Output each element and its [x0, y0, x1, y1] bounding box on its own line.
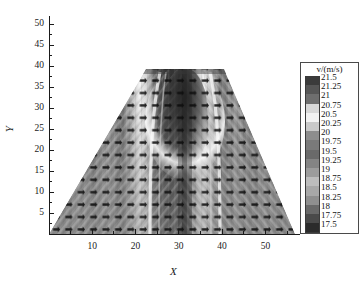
colorbar-swatch — [305, 205, 320, 214]
colorbar-swatch — [305, 113, 320, 122]
x-axis-title: X — [170, 265, 177, 277]
colorbar-swatch — [305, 104, 320, 113]
y-axis-title: Y — [3, 126, 15, 132]
x-tick-label: 40 — [210, 241, 234, 251]
colorbar-swatch — [305, 186, 320, 195]
y-tick-label: 45 — [22, 39, 44, 49]
y-tick-label: 50 — [22, 18, 44, 28]
y-tick-label: 15 — [22, 165, 44, 175]
colorbar-swatch — [305, 214, 320, 223]
colorbar-tick-label: 17.5 — [321, 220, 337, 229]
x-tick-label: 50 — [253, 241, 277, 251]
colorbar-swatch — [305, 131, 320, 140]
colorbar-swatch — [305, 168, 320, 177]
x-tick-label: 30 — [167, 241, 191, 251]
colorbar-swatch — [305, 196, 320, 205]
colorbar-swatch — [305, 140, 320, 149]
colorbar-swatch — [305, 177, 320, 186]
y-tick-label: 25 — [22, 123, 44, 133]
colorbar-swatch — [305, 94, 320, 103]
velocity-field — [49, 64, 295, 234]
y-tick-label: 10 — [22, 186, 44, 196]
colorbar-swatch — [305, 122, 320, 131]
colorbar-swatch — [305, 159, 320, 168]
y-tick-label: 35 — [22, 81, 44, 91]
y-tick-label: 20 — [22, 144, 44, 154]
x-tick-label: 20 — [124, 241, 148, 251]
y-tick-label: 40 — [22, 60, 44, 70]
colorbar-swatch — [305, 150, 320, 159]
y-tick-label: 30 — [22, 102, 44, 112]
x-tick-label: 10 — [80, 241, 104, 251]
colorbar-swatch — [305, 85, 320, 94]
y-tick-label: 5 — [22, 207, 44, 217]
velocity-contour-figure: 5101520253035404550 1020304050 Y X v/(m/… — [0, 0, 364, 285]
colorbar-swatch — [305, 223, 320, 233]
